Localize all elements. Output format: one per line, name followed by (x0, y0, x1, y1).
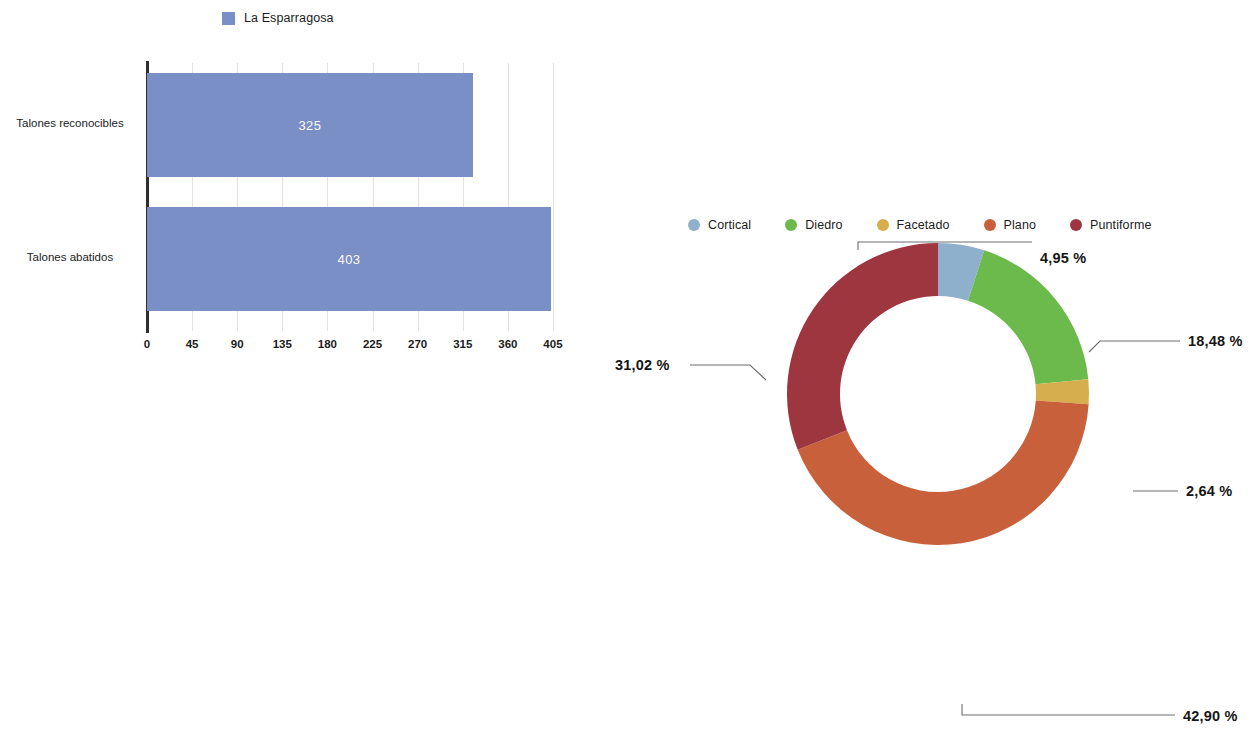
donut-legend-item-puntiforme[interactable]: Puntiforme (1070, 218, 1151, 232)
donut-legend-item-cortical[interactable]: Cortical (688, 218, 751, 232)
bar-x-tick-label: 405 (543, 338, 562, 350)
bar-rect[interactable]: 325 (147, 73, 473, 177)
callout-puntiforme: 31,02 % (615, 357, 670, 373)
donut-svg (786, 242, 1090, 546)
donut-legend-item-diedro[interactable]: Diedro (785, 218, 842, 232)
bar-x-tick-label: 315 (453, 338, 472, 350)
donut-slice-puntiforme[interactable] (787, 243, 938, 450)
bar-x-tick-label: 180 (318, 338, 337, 350)
bar-category-label: Talones abatidos (0, 251, 140, 263)
bar-row[interactable]: 325 (147, 73, 473, 177)
legend-label-la-esparragosa: La Esparragosa (244, 11, 334, 25)
legend-label-puntiforme: Puntiforme (1090, 218, 1151, 232)
legend-label-cortical: Cortical (708, 218, 751, 232)
bar-x-tick-label: 225 (363, 338, 382, 350)
legend-dot-facetado (877, 219, 889, 231)
chart-page: La Esparragosa 325403 Talones reconocibl… (0, 0, 1258, 732)
bar-x-tick-label: 0 (144, 338, 150, 350)
bar-row[interactable]: 403 (147, 207, 551, 311)
donut-legend-item-plano[interactable]: Plano (984, 218, 1036, 232)
legend-label-facetado: Facetado (897, 218, 950, 232)
legend-dot-diedro (785, 219, 797, 231)
callout-diedro: 18,48 % (1188, 333, 1243, 349)
bar-x-tick-label: 270 (408, 338, 427, 350)
leader-line-diedro (1089, 341, 1180, 352)
legend-swatch-la-esparragosa (222, 12, 235, 25)
donut-chart: CorticalDiedroFacetadoPlanoPuntiforme 4,… (600, 200, 1258, 732)
legend-dot-plano (984, 219, 996, 231)
bar-x-tick-label: 90 (231, 338, 244, 350)
bar-x-tick-label: 360 (498, 338, 517, 350)
legend-dot-puntiforme (1070, 219, 1082, 231)
leader-line-puntiforme (690, 365, 766, 380)
bar-rect[interactable]: 403 (147, 207, 551, 311)
callout-facetado: 2,64 % (1186, 483, 1232, 499)
donut-slice-diedro[interactable] (968, 250, 1088, 384)
callout-plano: 42,90 % (1183, 708, 1238, 724)
bar-category-label: Talones reconocibles (0, 117, 140, 129)
bar-x-tick-label: 45 (186, 338, 199, 350)
bar-x-tick-label: 135 (273, 338, 292, 350)
donut-chart-legend: CorticalDiedroFacetadoPlanoPuntiforme (688, 218, 1151, 232)
donut-legend-item-facetado[interactable]: Facetado (877, 218, 950, 232)
bar-chart-legend: La Esparragosa (222, 11, 334, 25)
bar-chart: La Esparragosa 325403 Talones reconocibl… (0, 0, 600, 380)
legend-dot-cortical (688, 219, 700, 231)
legend-label-plano: Plano (1004, 218, 1036, 232)
donut-graphic (786, 242, 1090, 546)
bar-value-label: 403 (338, 252, 361, 267)
bar-gridline (553, 63, 554, 331)
leader-line-plano (962, 704, 1175, 715)
bar-value-label: 325 (298, 118, 321, 133)
callout-cortical: 4,95 % (1040, 250, 1086, 266)
legend-label-diedro: Diedro (805, 218, 842, 232)
